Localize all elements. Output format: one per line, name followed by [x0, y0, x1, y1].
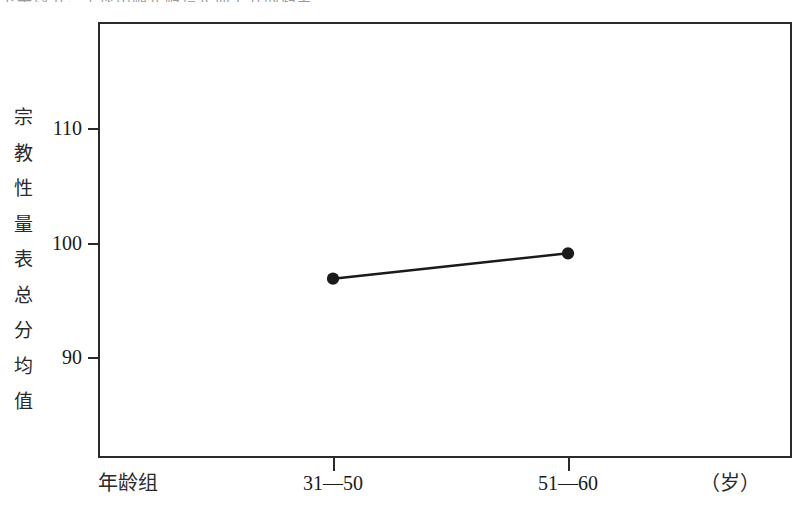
data-point-marker [562, 247, 574, 259]
data-series-layer [0, 0, 810, 516]
chart-figure: 下平均分，呈现出随年龄增长而上升的趋势。 宗 教 性 量 表 总 分 均 值 1… [0, 0, 810, 516]
data-point-marker [327, 273, 339, 285]
series-line [333, 253, 568, 278]
